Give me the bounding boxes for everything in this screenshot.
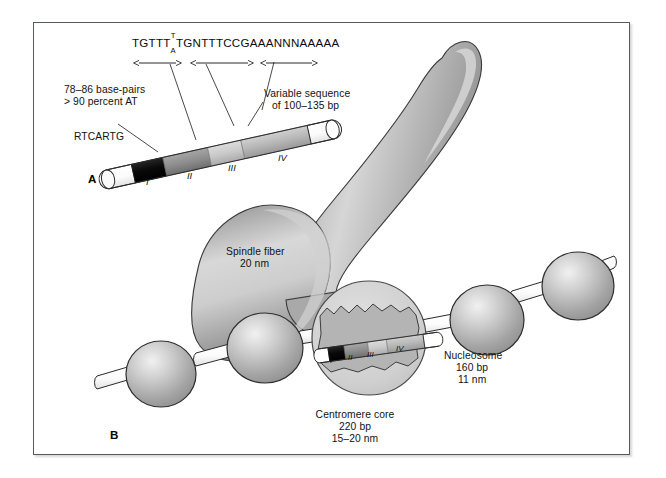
panel-label-b: B [110,428,118,441]
panel-a-chromatin-cylinder [97,118,343,190]
label-centromere-core: Centromere core [280,409,430,421]
inset-numeral-ii: II [348,353,352,362]
label-variable-sequence-line1: Variable sequence [264,88,350,100]
panel-label-a: A [88,172,96,185]
region-numeral-iii: III [228,162,236,173]
label-nucleosome: Nucleosome [444,350,502,362]
nucleosome-sphere [227,313,303,383]
inset-numeral-i: I [330,356,332,365]
label-spindle-fiber: Spindle fiber [226,246,285,258]
centromere-core-inset [312,281,444,395]
sequence-left: TGTTT [132,36,171,49]
label-variable-sequence-line2: of 100–135 bp [272,100,339,112]
label-centromere-nm: 15–20 nm [280,433,430,445]
label-nucleosome-bp: 160 bp [456,362,488,374]
nucleosome-sphere [542,252,614,320]
inset-numeral-iii: III [367,350,374,359]
region-numeral-iv: IV [278,152,287,163]
label-base-pairs: 78–86 base-pairs [64,84,145,96]
nucleosome-sphere [126,341,196,407]
label-spindle-size: 20 nm [240,258,269,270]
figure-canvas: TGTTT T A TGNTTTCCGAAANNNAAAAA 78–86 bas… [0,0,666,478]
label-at-percent: > 90 percent AT [64,96,138,108]
label-nucleosome-nm: 11 nm [458,374,486,386]
inset-numeral-iv: IV [396,344,404,353]
label-centromere-bp: 220 bp [280,421,430,433]
label-rtcartg: RTCARTG [74,131,124,143]
diagram-artwork [0,0,666,478]
region-numeral-i: I [146,176,149,187]
sequence-right: TGNTTTCCGAAANNNAAAAA [176,36,339,49]
region-numeral-ii: II [187,170,192,181]
nucleosome-sphere [450,285,524,355]
